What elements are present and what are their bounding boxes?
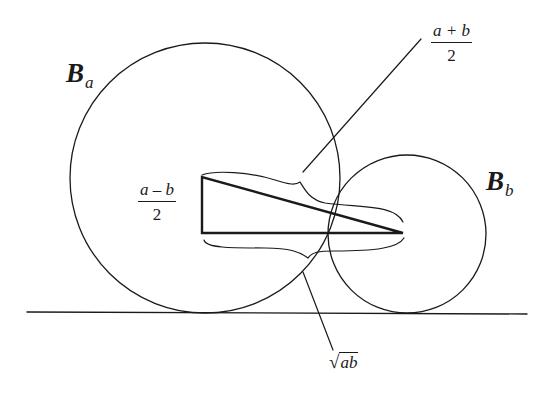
label-geo-mean: √ab <box>329 352 358 371</box>
label-circle-b: Bb <box>486 168 514 199</box>
label-circle-b-main: B <box>486 166 504 196</box>
lower-brace <box>204 238 404 258</box>
label-circle-a: Ba <box>66 60 94 91</box>
leader-half-sum <box>303 39 421 172</box>
radical-sign: √ <box>329 352 339 371</box>
label-circle-b-sub: b <box>505 181 514 200</box>
leader-geo-mean <box>303 272 333 350</box>
label-half-sum: a + b 2 <box>431 22 472 64</box>
half-diff-denominator: 2 <box>153 202 162 223</box>
half-sum-denominator: 2 <box>447 43 456 64</box>
label-half-diff: a – b 2 <box>138 181 176 223</box>
half-sum-numerator: a + b <box>431 22 472 43</box>
half-diff-numerator: a – b <box>138 181 176 202</box>
geo-mean-radicand: ab <box>339 352 358 371</box>
upper-brace <box>202 172 403 222</box>
ground-line <box>27 312 527 314</box>
label-circle-a-main: B <box>66 58 84 88</box>
label-circle-a-sub: a <box>85 73 94 92</box>
